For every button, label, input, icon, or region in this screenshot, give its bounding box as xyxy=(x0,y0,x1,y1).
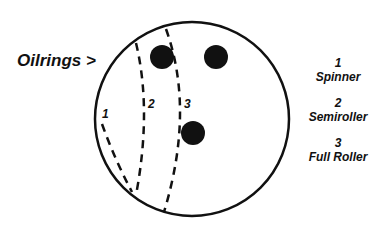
legend-name: Semiroller xyxy=(288,110,382,124)
track-label-1: 1 xyxy=(102,107,109,121)
legend-number: 2 xyxy=(288,96,382,110)
finger-hole-right xyxy=(204,45,228,69)
legend-item-full-roller: 3 Full Roller xyxy=(288,136,382,164)
track-label-3: 3 xyxy=(184,97,191,111)
oilrings-label: Oilrings > xyxy=(17,51,96,71)
legend-number: 3 xyxy=(288,136,382,150)
legend-item-spinner: 1 Spinner xyxy=(288,56,382,84)
legend-item-semiroller: 2 Semiroller xyxy=(288,96,382,124)
track-label-2: 2 xyxy=(148,97,155,111)
finger-hole-left xyxy=(150,45,174,69)
thumb-hole xyxy=(181,121,205,145)
oil-track-2-semiroller xyxy=(136,43,144,195)
legend-name: Spinner xyxy=(288,70,382,84)
bowling-ball-outline xyxy=(95,22,289,216)
legend-number: 1 xyxy=(288,56,382,70)
legend-name: Full Roller xyxy=(288,150,382,164)
